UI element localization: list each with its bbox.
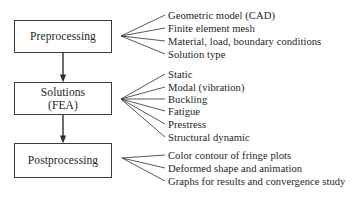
- list-item: Fatigue: [168, 106, 200, 117]
- list-item: Prestress: [168, 119, 206, 130]
- stage-label-postprocessing: Postprocessing: [28, 154, 98, 167]
- list-item: Buckling: [168, 94, 207, 105]
- list-item: Finite element mesh: [168, 23, 255, 34]
- arrow-solutions-to-postprocessing: [60, 115, 66, 144]
- list-item: Geometric model (CAD): [168, 10, 275, 21]
- fea-process-diagram: Preprocessing Solutions (FEA) Postproces…: [0, 0, 353, 197]
- arrow-preprocessing-to-solutions: [60, 53, 66, 83]
- list-item: Material, load, boundary conditions: [168, 36, 321, 47]
- list-item: Deformed shape and animation: [168, 163, 302, 174]
- fan-connector-solutions: [121, 74, 165, 137]
- list-item: Graphs for results and convergence study: [168, 176, 345, 187]
- stage-label-preprocessing: Preprocessing: [30, 30, 96, 43]
- list-item: Static: [168, 69, 192, 80]
- fan-connector-preprocessing: [121, 15, 165, 54]
- fan-connector-postprocessing: [122, 155, 165, 181]
- stage-box-solutions: Solutions (FEA): [14, 82, 112, 115]
- list-item: Structural dynamic: [168, 132, 250, 143]
- stage-box-postprocessing: Postprocessing: [14, 143, 112, 178]
- list-item: Modal (vibration): [168, 82, 244, 93]
- list-item: Color contour of fringe plots: [168, 150, 291, 161]
- list-item: Solution type: [168, 49, 225, 60]
- stage-label-solutions: Solutions (FEA): [41, 86, 85, 112]
- stage-box-preprocessing: Preprocessing: [14, 20, 112, 53]
